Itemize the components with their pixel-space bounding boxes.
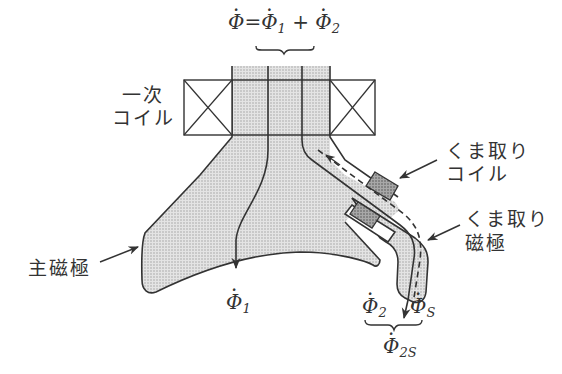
phi1-label: Φ1 bbox=[226, 292, 251, 315]
primary-coil-right bbox=[330, 80, 375, 135]
equals-sign: = bbox=[244, 10, 261, 34]
phi-1-term: Φ bbox=[261, 12, 277, 32]
phi2-label: Φ2 bbox=[362, 296, 387, 319]
phi2s-label: Φ2S bbox=[383, 336, 417, 359]
diagram-drawing bbox=[0, 0, 562, 374]
phis-label: ΦS bbox=[410, 296, 435, 319]
shading-coil-label-line1: くま取り bbox=[446, 142, 530, 161]
primary-coil-left bbox=[184, 80, 232, 135]
primary-coil-label-line1: 一次 bbox=[122, 86, 164, 105]
phi2-symbol: Φ bbox=[362, 296, 378, 316]
plus-sign: + bbox=[292, 10, 309, 34]
primary-coil-label-line2: コイル bbox=[112, 109, 175, 128]
shading-pole-leader bbox=[428, 225, 460, 240]
shading-coil-leader bbox=[400, 160, 437, 178]
main-pole-label: 主磁極 bbox=[28, 259, 91, 278]
phi-2-sub: 2 bbox=[332, 21, 340, 36]
phis-symbol: Φ bbox=[410, 296, 426, 316]
shading-coil-label-line2: コイル bbox=[446, 165, 509, 184]
main-pole-leader bbox=[100, 247, 138, 262]
phi2s-sub: 2S bbox=[399, 345, 416, 360]
shaded-pole-motor-diagram: Φ=Φ1 + Φ2 一次 コイル くま取り コイル くま取り 磁極 主磁極 Φ1… bbox=[0, 0, 562, 374]
phi-total: Φ bbox=[228, 12, 244, 32]
phi1-symbol: Φ bbox=[226, 292, 242, 312]
top-brace bbox=[256, 46, 314, 54]
shading-pole-label-line1: くま取り bbox=[465, 210, 549, 229]
phi-2-term: Φ bbox=[315, 12, 331, 32]
shading-pole-label-line2: 磁極 bbox=[465, 234, 507, 253]
flux-equation: Φ=Φ1 + Φ2 bbox=[228, 12, 340, 35]
phi2s-symbol: Φ bbox=[383, 336, 399, 356]
flux-arrow-down bbox=[404, 300, 408, 318]
phis-sub: S bbox=[426, 305, 435, 320]
phi-1-sub: 1 bbox=[278, 21, 286, 36]
phi2-sub: 2 bbox=[378, 305, 386, 320]
phi1-sub: 1 bbox=[242, 301, 250, 316]
